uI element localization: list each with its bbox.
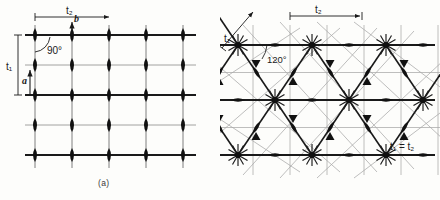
panel-b-hexagonal-lattice: t₂ t₁ 120° t₁ = t₂ (b) [220,0,440,200]
label-t1-a: t₁ [6,61,13,72]
dimension-t2-b [290,12,362,20]
label-t2-a: t₂ [66,5,73,16]
label-vector-b: b [74,13,79,24]
label-t1-b: t₁ [224,33,231,44]
label-t1-equals-t2: t₁ = t₂ [390,141,414,152]
label-angle-120: 120° [267,54,287,65]
label-vector-a: a [22,75,27,86]
panel-a-rectangular-lattice: t₂ t₁ a b 90° (a) [0,0,220,200]
figure-container: t₂ t₁ a b 90° (a) [0,0,440,200]
caption-panel-a: (a) [98,178,109,188]
dimension-t1-a [14,35,22,95]
label-t2-b: t₂ [315,4,322,15]
panel-a-drawing: t₂ t₁ a b 90° [0,0,220,200]
label-angle-90: 90° [47,45,62,56]
panel-b-drawing: t₂ t₁ 120° t₁ = t₂ [220,0,440,200]
